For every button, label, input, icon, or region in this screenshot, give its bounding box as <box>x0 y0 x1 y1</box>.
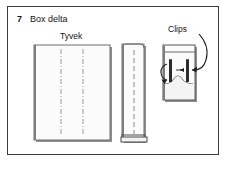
step-number: 7 <box>17 14 22 24</box>
label-clips: Clips <box>168 24 187 34</box>
figure-frame <box>7 6 219 155</box>
step-title: Box delta <box>30 14 68 24</box>
instruction-figure: 7 Box delta Tyvek Clips <box>0 0 229 170</box>
label-tyvek: Tyvek <box>60 31 82 41</box>
